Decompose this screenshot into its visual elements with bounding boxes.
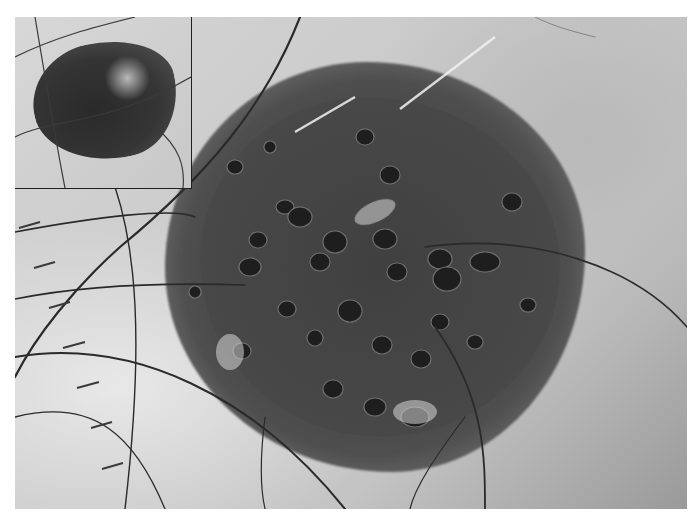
- clinical-inset: [15, 17, 192, 189]
- inset-hairs: [15, 17, 191, 188]
- dermoscopy-image: [15, 17, 687, 509]
